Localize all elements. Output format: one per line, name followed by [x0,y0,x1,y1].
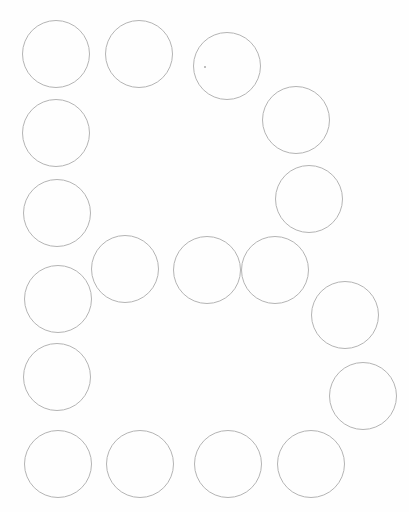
dot-marker-circle [173,236,241,304]
dot-marker-circle [105,20,173,88]
stray-mark [204,66,206,68]
dot-marker-circle [311,281,379,349]
dot-marker-circle [106,430,174,498]
dot-marker-circle [275,165,343,233]
dot-marker-circle [22,99,90,167]
dot-marker-circle [91,235,159,303]
dot-marker-circle [22,20,90,88]
dot-marker-circle [329,362,397,430]
dot-marker-circle [23,343,91,411]
dot-marker-circle [277,430,345,498]
dot-marker-circle [194,430,262,498]
dot-marker-circle [262,86,330,154]
dot-marker-circle [241,236,309,304]
dot-marker-circle [24,265,92,333]
dot-marker-circle [23,179,91,247]
worksheet-canvas [0,0,409,512]
dot-marker-circle [24,430,92,498]
